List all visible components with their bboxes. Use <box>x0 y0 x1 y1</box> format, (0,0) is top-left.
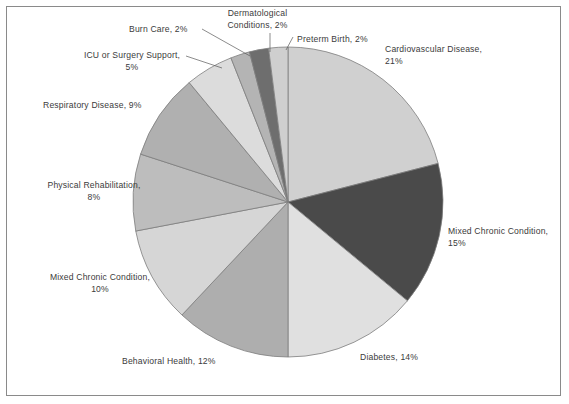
pie-label-line2: 10% <box>30 284 170 296</box>
pie-label-line1: Preterm Birth, 2% <box>297 34 407 46</box>
pie-slice-group <box>133 47 443 357</box>
pie-label-line2: 15% <box>448 238 568 250</box>
pie-label-mixed-chronic-condition-10: Mixed Chronic Condition,10% <box>30 272 170 295</box>
pie-label-line2: 8% <box>24 192 164 204</box>
pie-label-line1: ICU or Surgery Support, <box>62 50 202 62</box>
pie-label-line1: Cardiovascular Disease, <box>385 44 565 56</box>
pie-label-dermatological-conditions: DermatologicalConditions, 2% <box>210 8 305 31</box>
pie-label-mixed-chronic-condition-15: Mixed Chronic Condition,15% <box>448 226 568 249</box>
pie-label-behavioral-health: Behavioral Health, 12% <box>122 356 262 368</box>
pie-label-physical-rehabilitation: Physical Rehabilitation,8% <box>24 180 164 203</box>
pie-label-icu-or-surgery-support: ICU or Surgery Support,5% <box>62 50 202 73</box>
pie-label-line1: Behavioral Health, 12% <box>122 356 262 368</box>
pie-label-line1: Physical Rehabilitation, <box>24 180 164 192</box>
pie-label-burn-care: Burn Care, 2% <box>129 24 219 36</box>
pie-label-diabetes: Diabetes, 14% <box>360 352 460 364</box>
pie-label-line1: Burn Care, 2% <box>129 24 219 36</box>
pie-label-line1: Respiratory Disease, 9% <box>43 100 188 112</box>
pie-label-respiratory-disease: Respiratory Disease, 9% <box>43 100 188 112</box>
pie-label-line1: Mixed Chronic Condition, <box>448 226 568 238</box>
pie-label-line2: 21% <box>385 56 565 68</box>
pie-label-line1: Dermatological <box>210 8 305 20</box>
pie-label-line1: Diabetes, 14% <box>360 352 460 364</box>
pie-chart-figure: Cardiovascular Disease,21%Mixed Chronic … <box>0 0 569 404</box>
pie-label-cardiovascular-disease: Cardiovascular Disease,21% <box>385 44 565 67</box>
pie-label-line2: Conditions, 2% <box>210 20 305 32</box>
pie-label-line1: Mixed Chronic Condition, <box>30 272 170 284</box>
pie-label-preterm-birth: Preterm Birth, 2% <box>297 34 407 46</box>
pie-label-line2: 5% <box>62 62 202 74</box>
